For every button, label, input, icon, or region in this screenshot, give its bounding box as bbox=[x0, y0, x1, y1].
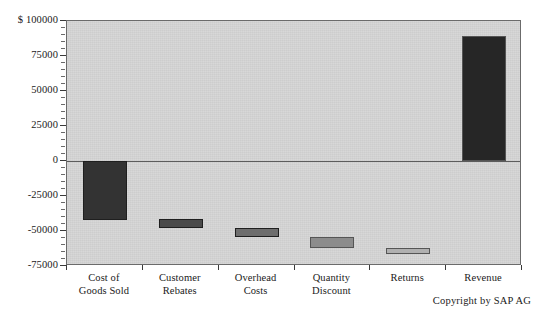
y-tick-major bbox=[60, 125, 66, 126]
y-tick-minor bbox=[61, 118, 65, 119]
y-tick-major bbox=[60, 195, 66, 196]
y-tick-minor bbox=[61, 251, 65, 252]
plot-texture bbox=[67, 21, 520, 264]
x-tick bbox=[142, 265, 143, 270]
y-tick-label: 75000 bbox=[31, 49, 58, 60]
bar-segment bbox=[235, 228, 279, 236]
y-tick-minor bbox=[61, 34, 65, 35]
y-tick-minor bbox=[61, 244, 65, 245]
y-tick-label: -75000 bbox=[28, 259, 58, 270]
x-category-label: Cost of Goods Sold bbox=[66, 271, 142, 297]
x-tick bbox=[294, 265, 295, 270]
y-tick-minor bbox=[61, 69, 65, 70]
y-axis: $ 1000007500050000250000-25000-50000-750… bbox=[0, 0, 58, 314]
y-tick-minor bbox=[61, 27, 65, 28]
y-tick-minor bbox=[61, 48, 65, 49]
y-tick-label: -50000 bbox=[28, 224, 58, 235]
bar-segment bbox=[159, 219, 203, 228]
y-tick-minor bbox=[61, 181, 65, 182]
y-tick-minor bbox=[61, 258, 65, 259]
y-tick-minor bbox=[61, 209, 65, 210]
y-tick-minor bbox=[61, 139, 65, 140]
bar-segment bbox=[83, 161, 127, 220]
y-tick-label: $ 100000 bbox=[18, 14, 58, 25]
x-tick bbox=[218, 265, 219, 270]
y-tick-minor bbox=[61, 216, 65, 217]
copyright-text: Copyright by SAP AG bbox=[433, 295, 531, 307]
y-tick-minor bbox=[61, 132, 65, 133]
y-tick-minor bbox=[61, 41, 65, 42]
y-tick-minor bbox=[61, 202, 65, 203]
y-tick-label: -25000 bbox=[28, 189, 58, 200]
x-category-label: Customer Rebates bbox=[142, 271, 218, 297]
x-tick bbox=[66, 265, 67, 270]
bar-segment bbox=[386, 248, 430, 254]
y-tick-minor bbox=[61, 174, 65, 175]
y-tick-minor bbox=[61, 76, 65, 77]
plot-area bbox=[66, 20, 521, 265]
x-category-label: Revenue bbox=[445, 271, 521, 284]
y-tick-minor bbox=[61, 83, 65, 84]
y-tick-minor bbox=[61, 223, 65, 224]
y-tick-minor bbox=[61, 111, 65, 112]
x-category-label: Quantity Discount bbox=[294, 271, 370, 297]
x-tick bbox=[369, 265, 370, 270]
y-tick-major bbox=[60, 20, 66, 21]
y-tick-minor bbox=[61, 153, 65, 154]
y-tick-label: 0 bbox=[53, 154, 58, 165]
y-tick-label: 25000 bbox=[31, 119, 58, 130]
x-category-label: Returns bbox=[369, 271, 445, 284]
y-tick-label: 50000 bbox=[31, 84, 58, 95]
bar-segment bbox=[462, 36, 506, 161]
x-category-label: Overhead Costs bbox=[218, 271, 294, 297]
y-tick-major bbox=[60, 160, 66, 161]
zero-baseline bbox=[67, 161, 520, 162]
x-tick bbox=[521, 265, 522, 270]
y-tick-minor bbox=[61, 167, 65, 168]
y-tick-minor bbox=[61, 62, 65, 63]
y-tick-major bbox=[60, 90, 66, 91]
y-tick-major bbox=[60, 230, 66, 231]
y-tick-minor bbox=[61, 104, 65, 105]
y-tick-major bbox=[60, 55, 66, 56]
x-tick bbox=[445, 265, 446, 270]
y-tick-minor bbox=[61, 237, 65, 238]
y-tick-minor bbox=[61, 146, 65, 147]
waterfall-chart: $ 1000007500050000250000-25000-50000-750… bbox=[0, 0, 539, 314]
y-tick-minor bbox=[61, 97, 65, 98]
y-tick-minor bbox=[61, 188, 65, 189]
bar-segment bbox=[310, 237, 354, 249]
